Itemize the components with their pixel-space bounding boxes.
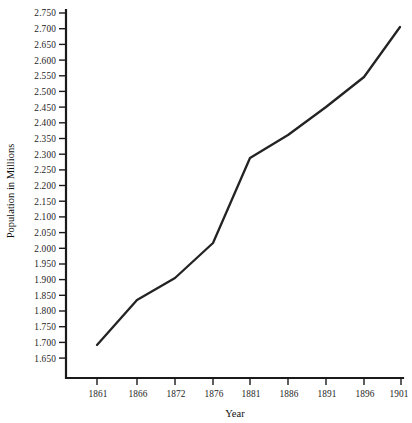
x-tick-label: 1881	[241, 389, 260, 399]
y-tick-label: 2.350	[34, 134, 56, 144]
y-tick-label: 2.200	[34, 181, 56, 191]
y-tick-label: 2.500	[34, 87, 56, 97]
x-axis-title: Year	[225, 408, 245, 419]
x-tick-label: 1901	[389, 389, 408, 399]
x-tick-label: 1861	[88, 389, 107, 399]
y-tick-label: 1.700	[34, 338, 56, 348]
y-tick-label: 2.650	[34, 40, 56, 50]
y-tick-label: 1.800	[34, 306, 56, 316]
x-axis-tick-labels: 1861 1866 1872 1876 1881 1886 1891 1896 …	[88, 389, 408, 399]
y-tick-label: 1.950	[34, 259, 56, 269]
y-tick-label: 2.600	[34, 56, 56, 66]
y-tick-label: 2.000	[34, 244, 56, 254]
y-tick-label: 1.850	[34, 291, 56, 301]
y-tick-label: 2.300	[34, 150, 56, 160]
y-tick-label: 2.750	[34, 8, 56, 18]
y-tick-label: 1.650	[34, 354, 56, 364]
x-tick-label: 1886	[279, 389, 298, 399]
y-axis-title: Population in Millions	[5, 144, 16, 239]
x-tick-label: 1891	[317, 389, 336, 399]
x-tick-label: 1876	[204, 389, 223, 399]
y-tick-label: 2.250	[34, 165, 56, 175]
chart-page: 2.750 2.700 2.650 2.600 2.550 2.500 2.45…	[0, 0, 412, 423]
y-tick-label: 2.050	[34, 228, 56, 238]
y-tick-label: 1.900	[34, 275, 56, 285]
y-tick-label: 2.400	[34, 118, 56, 128]
y-axis-tick-labels: 2.750 2.700 2.650 2.600 2.550 2.500 2.45…	[34, 8, 56, 363]
population-line-chart: 2.750 2.700 2.650 2.600 2.550 2.500 2.45…	[0, 0, 412, 423]
y-tick-label: 2.100	[34, 212, 56, 222]
y-tick-label: 2.550	[34, 71, 56, 81]
x-tick-label: 1872	[166, 389, 185, 399]
y-tick-label: 2.150	[34, 197, 56, 207]
y-tick-label: 1.750	[34, 322, 56, 332]
x-tick-label: 1866	[128, 389, 147, 399]
y-tick-label: 2.700	[34, 24, 56, 34]
population-series-line	[97, 27, 400, 345]
y-tick-label: 2.450	[34, 103, 56, 113]
x-tick-label: 1896	[355, 389, 374, 399]
